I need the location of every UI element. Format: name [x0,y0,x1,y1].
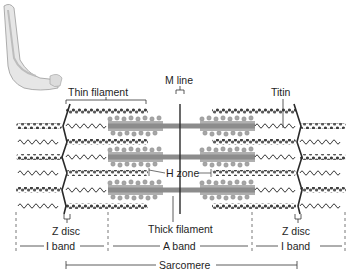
z-disc-left [62,104,70,214]
label-z-disc-right: Z disc [282,225,310,237]
label-i-band-left: I band [46,240,75,252]
label-titin: Titin [271,86,290,98]
thick-filament [108,147,255,167]
label-z-disc-left: Z disc [52,225,80,237]
label-sarcomere: Sarcomere [159,259,210,271]
sarcomere-diagram [0,0,357,280]
label-h-zone: H zone [166,167,199,179]
arm-muscle-icon [4,4,62,90]
label-thick-filament: Thick filament [148,223,213,235]
thick-filament [108,180,255,200]
label-thin-filament: Thin filament [68,86,128,98]
label-a-band: A band [163,240,196,252]
label-i-band-right: I band [281,240,310,252]
z-disc-right [294,104,302,214]
thick-filament [108,116,255,136]
label-m-line: M line [165,74,193,86]
thick-filaments [108,116,255,200]
